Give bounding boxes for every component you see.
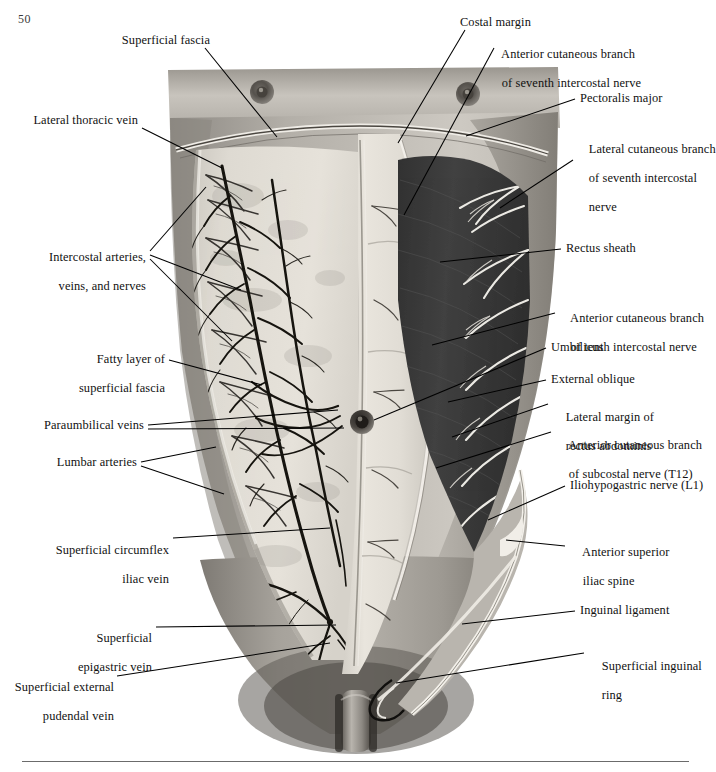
label-line: Fatty layer of bbox=[97, 352, 165, 366]
nipple-right bbox=[456, 82, 480, 106]
label-fatty-layer-of-superficial-fascia: Fatty layer of superficial fascia bbox=[10, 338, 165, 410]
footer-rule bbox=[22, 761, 689, 762]
label-external-oblique: External oblique bbox=[551, 372, 635, 386]
label-inguinal-ligament: Inguinal ligament bbox=[580, 603, 669, 617]
label-line: Anterior cutaneous branch bbox=[570, 311, 704, 325]
label-pectoralis-major: Pectoralis major bbox=[580, 91, 662, 105]
label-line: superficial fascia bbox=[79, 381, 165, 395]
label-line: Anterior superior bbox=[582, 545, 669, 559]
label-line: of seventh intercostal bbox=[589, 171, 697, 185]
label-lateral-cutaneous-branch-seventh-intercostal-nerve: Lateral cutaneous branch of seventh inte… bbox=[576, 128, 716, 229]
label-line: nerve bbox=[589, 200, 617, 214]
label-superficial-fascia: Superficial fascia bbox=[10, 33, 210, 47]
label-line: Superficial inguinal bbox=[602, 659, 702, 673]
label-paraumbilical-veins: Paraumbilical veins bbox=[10, 418, 144, 432]
label-costal-margin: Costal margin bbox=[460, 15, 531, 29]
label-lumbar-arteries: Lumbar arteries bbox=[10, 455, 137, 469]
label-line: Lateral margin of bbox=[566, 410, 654, 424]
label-line: Lateral cutaneous branch bbox=[589, 142, 716, 156]
umbilicus bbox=[350, 410, 374, 434]
label-anterior-superior-iliac-spine: Anterior superior iliac spine bbox=[570, 531, 670, 603]
label-line: ring bbox=[602, 688, 622, 702]
label-superficial-external-pudendal-vein: Superficial external pudendal vein bbox=[2, 666, 114, 738]
label-rectus-sheath: Rectus sheath bbox=[566, 241, 636, 255]
label-iliohypogastric-nerve-l1: Iliohypogastric nerve (L1) bbox=[570, 478, 703, 492]
label-line: Anterior cutaneous branch bbox=[501, 47, 635, 61]
label-line: Superficial circumflex bbox=[56, 543, 169, 557]
label-anterior-cutaneous-branch-tenth-intercostal-nerve: Anterior cutaneous branch of tenth inter… bbox=[558, 297, 704, 369]
label-line: Anterior cutaneous branch bbox=[568, 438, 702, 452]
label-line: iliac spine bbox=[583, 574, 635, 588]
label-intercostal-arteries-veins-nerves: Intercostal arteries, veins, and nerves bbox=[10, 236, 146, 308]
label-umbilicus: Umbilicus bbox=[551, 340, 604, 354]
label-line: veins, and nerves bbox=[59, 279, 146, 293]
label-superficial-circumflex-iliac-vein: Superficial circumflex iliac vein bbox=[5, 529, 169, 601]
label-line: Superficial external bbox=[15, 680, 114, 694]
label-line: Intercostal arteries, bbox=[49, 250, 146, 264]
nipple-left bbox=[250, 80, 274, 104]
label-line: of seventh intercostal nerve bbox=[502, 76, 641, 90]
label-lateral-thoracic-vein: Lateral thoracic vein bbox=[10, 113, 138, 127]
label-line: iliac vein bbox=[122, 572, 169, 586]
page-number: 50 bbox=[18, 12, 31, 27]
label-superficial-inguinal-ring: Superficial inguinal ring bbox=[589, 645, 702, 717]
label-line: pudendal vein bbox=[43, 709, 114, 723]
label-line: Superficial bbox=[97, 631, 152, 645]
